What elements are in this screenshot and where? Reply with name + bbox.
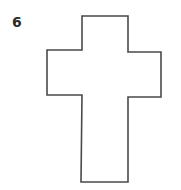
cross-shape	[47, 16, 161, 182]
cross-diagram	[0, 0, 181, 190]
